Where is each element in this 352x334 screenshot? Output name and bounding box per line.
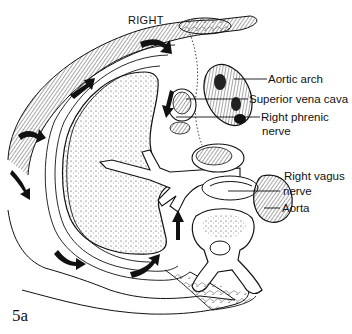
label-superior-vena-cava: Superior vena cava: [249, 93, 348, 106]
label-right-vagus-nerve-line2: nerve: [283, 185, 312, 198]
anatomy-illustration: [0, 0, 352, 334]
orientation-label: RIGHT: [128, 14, 164, 26]
figure-number: 5a: [12, 306, 28, 326]
label-right-vagus-nerve: Right vagus: [284, 170, 345, 183]
arrow-icon: [172, 210, 184, 240]
arrow-icon: [10, 170, 30, 200]
label-aorta: Aorta: [282, 202, 310, 215]
label-aortic-arch: Aortic arch: [268, 73, 323, 86]
label-right-phrenic-nerve-line2: nerve: [262, 125, 291, 138]
arrow-icon: [54, 250, 86, 270]
label-right-phrenic-nerve: Right phrenic: [261, 111, 329, 124]
arrow-icon: [130, 254, 160, 278]
